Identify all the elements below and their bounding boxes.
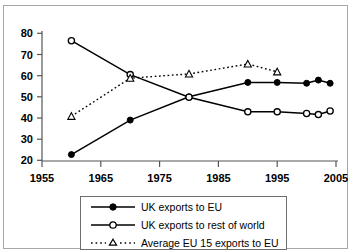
data-point-filled-circle <box>304 80 310 86</box>
y-tick-label: 70 <box>21 49 33 61</box>
y-tick-label: 80 <box>21 27 33 39</box>
data-point-open-circle <box>327 108 333 114</box>
data-point-open-circle <box>304 110 310 116</box>
x-tick-label: 1995 <box>265 172 289 184</box>
data-point-open-circle <box>186 94 192 100</box>
x-tick-label: 1965 <box>89 172 113 184</box>
chart-legend: UK exports to EU UK exports to rest of w… <box>80 196 287 250</box>
legend-item-uk-exports-to-eu[interactable]: UK exports to EU <box>81 198 286 216</box>
data-point-filled-circle <box>327 80 333 86</box>
x-axis-ticks <box>42 161 336 167</box>
y-axis-tick-labels: 80 70 60 50 40 30 20 <box>21 27 33 166</box>
data-point-open-circle <box>274 109 280 115</box>
legend-symbol-filled-circle <box>85 199 141 215</box>
chart-page: 80 70 60 50 40 30 20 1955 1965 1975 1985… <box>0 0 353 252</box>
data-point-open-circle <box>245 109 251 115</box>
legend-label: UK exports to EU <box>141 201 222 213</box>
legend-label: UK exports to rest of world <box>141 219 265 231</box>
data-point-filled-circle <box>245 79 251 85</box>
series-line <box>71 41 330 115</box>
legend-item-uk-exports-to-rest-of-world[interactable]: UK exports to rest of world <box>81 216 286 234</box>
legend-symbol-open-circle <box>85 217 141 233</box>
data-point-open-triangle <box>185 70 192 77</box>
y-tick-label: 20 <box>21 154 33 166</box>
x-tick-label: 2005 <box>324 172 348 184</box>
x-tick-label: 1985 <box>206 172 230 184</box>
data-point-filled-circle <box>68 152 74 158</box>
data-point-filled-circle <box>274 79 280 85</box>
series-line <box>71 80 330 155</box>
y-tick-label: 60 <box>21 70 33 82</box>
x-tick-label: 1955 <box>30 172 54 184</box>
data-point-filled-circle <box>315 77 321 83</box>
series-0 <box>68 77 333 158</box>
y-tick-label: 50 <box>21 91 33 103</box>
y-tick-label: 40 <box>21 112 33 124</box>
x-axis-tick-labels: 1955 1965 1975 1985 1995 2005 <box>30 172 348 184</box>
y-tick-label: 30 <box>21 133 33 145</box>
legend-label: Average EU 15 exports to EU <box>141 237 279 249</box>
data-point-open-triangle <box>68 113 75 120</box>
legend-symbol-open-triangle <box>85 235 141 251</box>
x-tick-label: 1975 <box>147 172 171 184</box>
data-point-open-circle <box>68 38 74 44</box>
legend-item-average-eu-15-exports-to-eu[interactable]: Average EU 15 exports to EU <box>81 234 286 252</box>
series-1 <box>68 38 333 118</box>
series-layer <box>68 38 333 158</box>
y-axis-ticks <box>37 33 42 160</box>
data-point-open-circle <box>315 111 321 117</box>
data-point-filled-circle <box>127 117 133 123</box>
